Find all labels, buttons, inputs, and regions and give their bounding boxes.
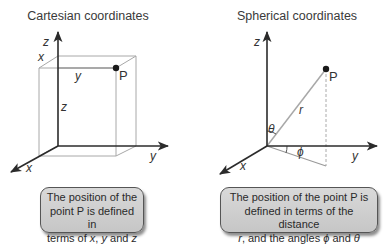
spherical-caption: The position of the point P is defined i… [220,187,378,233]
z-edge-label: z [60,100,67,114]
point-p-label: P [329,69,338,84]
radius-label: r [299,103,304,117]
x-axis-label: x [239,159,247,173]
radius-line [267,69,326,146]
x-axis-label: x [25,161,33,175]
caption-line: r, and the angles ϕ and θ [225,232,373,244]
z-axis-label: z [253,35,260,49]
caption-text: and [107,232,131,244]
x-axis [11,146,58,172]
y-axis-label: y [149,149,157,163]
point-p-label: P [119,68,128,83]
caption-text: , and the angles [242,232,323,244]
cartesian-diagram: z x y P z y x [11,32,168,175]
caption-line: The position of the point P is [225,191,373,205]
phi-label: ϕ [297,145,304,159]
caption-line: defined in terms of the distance [225,205,373,232]
phi-arc [286,146,287,153]
y-edge-label: y [74,69,82,83]
caption-line: point P is defined in [45,205,139,232]
cartesian-caption: The position of the point P is defined i… [40,187,144,233]
caption-text: and [329,232,353,244]
y-axis-label: y [351,149,359,163]
var-theta: θ [354,232,360,244]
caption-line: terms of x, y and z [45,232,139,244]
x-edge-label: x [37,50,45,64]
spherical-diagram: z P r θ ϕ y x [220,32,377,174]
z-axis-label: z [42,35,49,49]
theta-label: θ [268,122,275,136]
caption-text: terms of [47,232,90,244]
var-z: z [131,232,137,244]
caption-line: The position of the [45,191,139,205]
